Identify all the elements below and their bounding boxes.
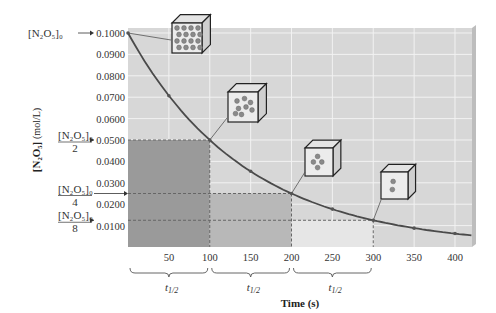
molecule-icon xyxy=(175,26,180,31)
molecule-icon xyxy=(182,26,187,31)
concentration-marker: [N₂O₅]₀ xyxy=(58,209,93,221)
molecule-icon xyxy=(198,45,203,50)
x-tick-label: 250 xyxy=(325,252,341,263)
molecule-icon xyxy=(390,187,395,192)
half-life-subscript: 1/2 xyxy=(250,286,260,295)
cube-front xyxy=(305,148,333,176)
arrowhead-icon xyxy=(90,31,94,36)
cube-t100 xyxy=(228,84,266,122)
y-tick-label: 0.0300 xyxy=(96,178,125,189)
cube-t0 xyxy=(172,15,210,53)
half-life-subscript: 1/2 xyxy=(331,286,341,295)
molecule-icon xyxy=(235,99,240,104)
fraction-denominator: 8 xyxy=(72,222,78,234)
y-tick-label: 0.0800 xyxy=(96,71,125,82)
y-tick-label: 0.0700 xyxy=(96,92,125,103)
cube-t200 xyxy=(305,140,341,176)
cube-front xyxy=(381,172,408,199)
y-axis-label: [N₂O₅] (mol/L) xyxy=(30,108,43,172)
y-tick-label: 0.0400 xyxy=(96,156,125,167)
molecule-icon xyxy=(182,39,187,44)
plot-edge xyxy=(472,25,476,247)
x-tick-label: 300 xyxy=(365,252,381,263)
molecule-icon xyxy=(319,160,324,165)
molecule-icon xyxy=(196,39,201,44)
half-life-chart: 0.01000.02000.03000.04000.05000.06000.07… xyxy=(0,0,496,313)
molecule-icon xyxy=(391,179,396,184)
molecule-icon xyxy=(191,32,196,37)
molecule-icon xyxy=(191,45,196,50)
half-life-subscript: 1/2 xyxy=(168,286,178,295)
molecule-icon xyxy=(177,32,182,37)
molecule-icon xyxy=(189,26,194,31)
molecule-icon xyxy=(315,154,320,159)
half-life-brace xyxy=(294,268,372,277)
x-axis-label: Time (s) xyxy=(281,297,320,310)
x-tick-label: 400 xyxy=(447,252,463,263)
molecule-icon xyxy=(248,100,253,105)
half-life-label: t1/2 xyxy=(165,281,178,295)
molecule-icon xyxy=(250,108,255,113)
molecule-icon xyxy=(315,165,320,170)
y-tick-label: 0.0500 xyxy=(96,135,125,146)
molecule-icon xyxy=(184,45,189,50)
molecule-icon xyxy=(239,112,244,117)
molecule-icon xyxy=(244,105,249,110)
molecule-icon xyxy=(311,160,316,165)
x-tick-label: 100 xyxy=(202,252,218,263)
x-tick-label: 50 xyxy=(164,252,175,263)
molecule-icon xyxy=(177,45,182,50)
x-tick-label: 200 xyxy=(284,252,300,263)
data-point xyxy=(453,232,457,236)
half-life-label: t1/2 xyxy=(328,281,341,295)
y-axis-unit: (mol/L) xyxy=(31,108,43,139)
data-point xyxy=(249,169,253,173)
x-tick-label: 150 xyxy=(243,252,259,263)
y-tick-label: 0.0200 xyxy=(96,199,125,210)
molecule-icon xyxy=(198,32,203,37)
arrowhead-icon xyxy=(124,191,128,196)
concentration-marker: [N₂O₅]₀ xyxy=(28,27,63,39)
plot-area xyxy=(126,15,476,247)
fraction-denominator: 4 xyxy=(72,196,78,208)
half-life-label: t1/2 xyxy=(247,281,260,295)
half-life-brace xyxy=(212,268,290,277)
molecule-icon xyxy=(175,39,180,44)
y-tick-label: 0.1000 xyxy=(96,28,125,39)
concentration-marker: [N₂O₅]₀ xyxy=(58,183,93,195)
concentration-marker: [N₂O₅]₀ xyxy=(58,129,93,141)
cube-t300 xyxy=(381,164,416,199)
half-life-brace xyxy=(130,268,208,277)
data-point xyxy=(167,94,171,98)
fraction-denominator: 2 xyxy=(72,142,78,154)
x-tick-label: 350 xyxy=(406,252,422,263)
data-point xyxy=(331,207,335,211)
y-tick-label: 0.0900 xyxy=(96,49,125,60)
y-tick-label: 0.0100 xyxy=(96,221,125,232)
molecule-icon xyxy=(233,111,238,116)
molecule-icon xyxy=(236,106,241,111)
y-tick-label: 0.0600 xyxy=(96,114,125,125)
molecule-icon xyxy=(242,96,247,101)
shade-third-half-life xyxy=(292,220,374,247)
molecule-icon xyxy=(196,26,201,31)
molecule-icon xyxy=(184,32,189,37)
data-point xyxy=(412,226,416,230)
molecule-icon xyxy=(189,39,194,44)
